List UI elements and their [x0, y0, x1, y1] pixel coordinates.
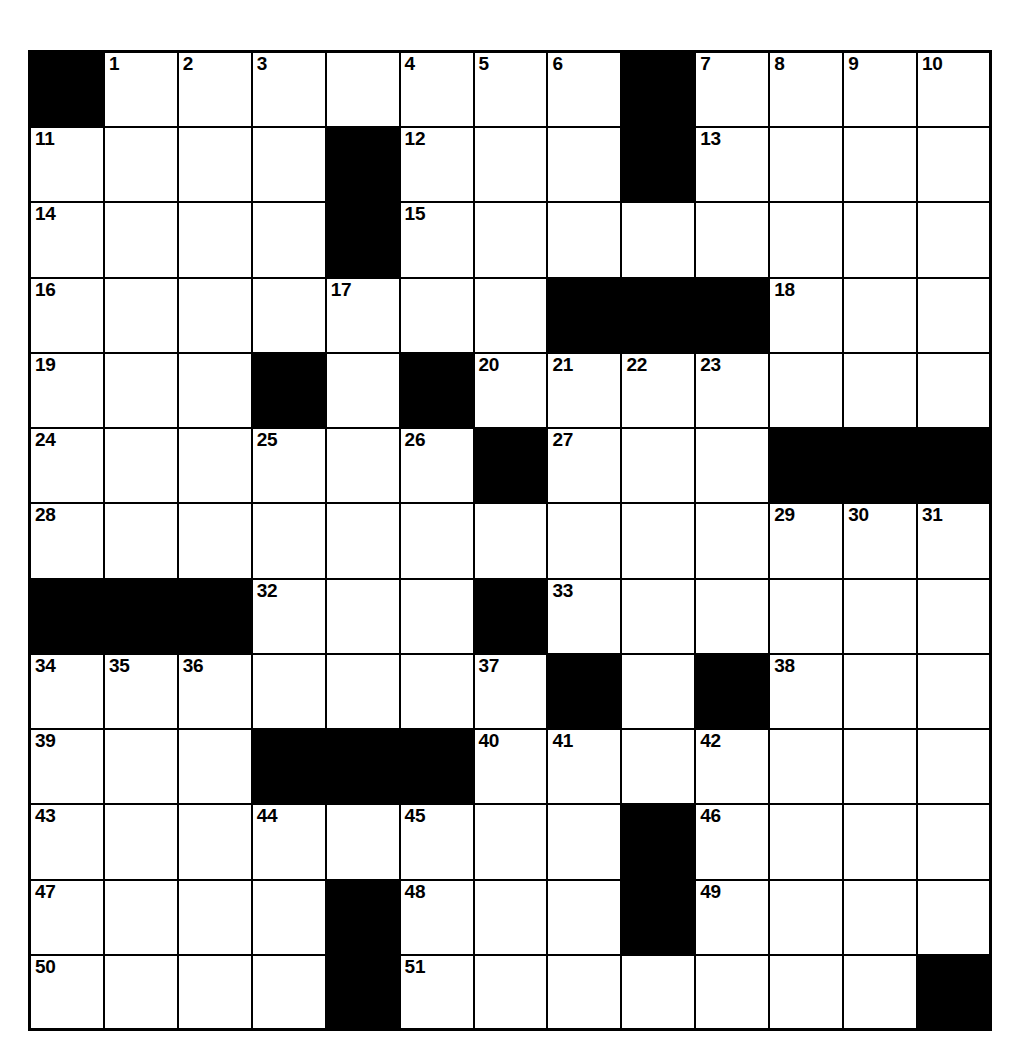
grid-open-cell[interactable] — [475, 279, 549, 354]
grid-open-cell[interactable] — [105, 203, 179, 278]
grid-open-cell[interactable] — [770, 203, 844, 278]
grid-open-cell[interactable] — [696, 504, 770, 579]
grid-open-cell[interactable] — [696, 203, 770, 278]
grid-open-cell[interactable]: 43 — [31, 805, 105, 880]
grid-open-cell[interactable]: 2 — [179, 53, 253, 128]
grid-open-cell[interactable] — [253, 956, 327, 1031]
grid-open-cell[interactable]: 6 — [548, 53, 622, 128]
grid-open-cell[interactable] — [844, 279, 918, 354]
grid-open-cell[interactable] — [475, 128, 549, 203]
grid-open-cell[interactable] — [105, 956, 179, 1031]
grid-open-cell[interactable] — [327, 504, 401, 579]
grid-open-cell[interactable]: 31 — [918, 504, 992, 579]
grid-open-cell[interactable]: 44 — [253, 805, 327, 880]
grid-open-cell[interactable]: 49 — [696, 881, 770, 956]
grid-open-cell[interactable] — [844, 354, 918, 429]
grid-open-cell[interactable] — [844, 128, 918, 203]
grid-open-cell[interactable] — [475, 956, 549, 1031]
grid-open-cell[interactable] — [770, 580, 844, 655]
grid-open-cell[interactable] — [918, 580, 992, 655]
grid-open-cell[interactable]: 15 — [401, 203, 475, 278]
grid-open-cell[interactable] — [401, 279, 475, 354]
grid-open-cell[interactable] — [696, 429, 770, 504]
grid-open-cell[interactable]: 10 — [918, 53, 992, 128]
grid-open-cell[interactable]: 45 — [401, 805, 475, 880]
grid-open-cell[interactable] — [918, 805, 992, 880]
grid-open-cell[interactable] — [327, 805, 401, 880]
grid-open-cell[interactable]: 26 — [401, 429, 475, 504]
grid-open-cell[interactable]: 30 — [844, 504, 918, 579]
grid-open-cell[interactable] — [475, 504, 549, 579]
grid-open-cell[interactable] — [105, 128, 179, 203]
grid-open-cell[interactable] — [622, 504, 696, 579]
grid-open-cell[interactable] — [179, 805, 253, 880]
grid-open-cell[interactable]: 38 — [770, 655, 844, 730]
grid-open-cell[interactable] — [844, 730, 918, 805]
grid-open-cell[interactable] — [105, 881, 179, 956]
grid-open-cell[interactable]: 32 — [253, 580, 327, 655]
grid-open-cell[interactable]: 9 — [844, 53, 918, 128]
grid-open-cell[interactable] — [918, 128, 992, 203]
grid-open-cell[interactable] — [401, 580, 475, 655]
grid-open-cell[interactable] — [696, 580, 770, 655]
grid-open-cell[interactable] — [548, 956, 622, 1031]
grid-open-cell[interactable]: 50 — [31, 956, 105, 1031]
grid-open-cell[interactable] — [253, 881, 327, 956]
grid-open-cell[interactable] — [844, 655, 918, 730]
grid-open-cell[interactable]: 11 — [31, 128, 105, 203]
grid-open-cell[interactable] — [253, 655, 327, 730]
grid-open-cell[interactable]: 37 — [475, 655, 549, 730]
grid-open-cell[interactable] — [327, 53, 401, 128]
grid-open-cell[interactable]: 29 — [770, 504, 844, 579]
grid-open-cell[interactable] — [179, 881, 253, 956]
grid-open-cell[interactable] — [770, 881, 844, 956]
grid-open-cell[interactable] — [770, 354, 844, 429]
grid-open-cell[interactable]: 34 — [31, 655, 105, 730]
grid-open-cell[interactable] — [253, 279, 327, 354]
grid-open-cell[interactable] — [327, 655, 401, 730]
grid-open-cell[interactable] — [327, 580, 401, 655]
grid-open-cell[interactable] — [105, 805, 179, 880]
grid-open-cell[interactable] — [844, 956, 918, 1031]
grid-open-cell[interactable] — [918, 354, 992, 429]
grid-open-cell[interactable] — [844, 881, 918, 956]
grid-open-cell[interactable] — [622, 730, 696, 805]
grid-open-cell[interactable]: 5 — [475, 53, 549, 128]
grid-open-cell[interactable] — [622, 956, 696, 1031]
grid-open-cell[interactable] — [179, 429, 253, 504]
grid-open-cell[interactable]: 1 — [105, 53, 179, 128]
grid-open-cell[interactable] — [475, 805, 549, 880]
grid-open-cell[interactable] — [548, 203, 622, 278]
grid-open-cell[interactable] — [548, 805, 622, 880]
grid-open-cell[interactable]: 17 — [327, 279, 401, 354]
grid-open-cell[interactable]: 12 — [401, 128, 475, 203]
grid-open-cell[interactable] — [105, 279, 179, 354]
grid-open-cell[interactable]: 23 — [696, 354, 770, 429]
grid-open-cell[interactable] — [548, 881, 622, 956]
grid-open-cell[interactable] — [918, 203, 992, 278]
grid-open-cell[interactable] — [179, 730, 253, 805]
grid-open-cell[interactable] — [179, 128, 253, 203]
grid-open-cell[interactable] — [327, 429, 401, 504]
grid-open-cell[interactable]: 4 — [401, 53, 475, 128]
grid-open-cell[interactable]: 20 — [475, 354, 549, 429]
grid-open-cell[interactable] — [179, 354, 253, 429]
grid-open-cell[interactable] — [548, 128, 622, 203]
grid-open-cell[interactable] — [918, 881, 992, 956]
grid-open-cell[interactable]: 22 — [622, 354, 696, 429]
grid-open-cell[interactable]: 7 — [696, 53, 770, 128]
grid-open-cell[interactable]: 47 — [31, 881, 105, 956]
grid-open-cell[interactable] — [622, 655, 696, 730]
grid-open-cell[interactable]: 18 — [770, 279, 844, 354]
grid-open-cell[interactable] — [105, 504, 179, 579]
grid-open-cell[interactable]: 19 — [31, 354, 105, 429]
grid-open-cell[interactable]: 8 — [770, 53, 844, 128]
grid-open-cell[interactable]: 33 — [548, 580, 622, 655]
grid-open-cell[interactable]: 28 — [31, 504, 105, 579]
grid-open-cell[interactable] — [179, 504, 253, 579]
grid-open-cell[interactable] — [105, 730, 179, 805]
grid-open-cell[interactable] — [918, 730, 992, 805]
grid-open-cell[interactable]: 41 — [548, 730, 622, 805]
grid-open-cell[interactable] — [548, 504, 622, 579]
grid-open-cell[interactable] — [253, 504, 327, 579]
